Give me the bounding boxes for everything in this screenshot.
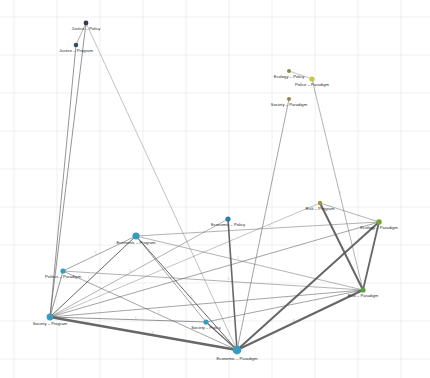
- graph-node-risk-program[interactable]: [318, 201, 322, 205]
- graph-node-label-society-program: Society – Program: [33, 321, 68, 326]
- graph-node-ecology-paradigm[interactable]: [376, 219, 382, 225]
- graph-node-justice-program[interactable]: [74, 43, 79, 48]
- graph-node-ecology-policy[interactable]: [287, 69, 291, 73]
- graph-node-label-justice-policy: Justice – Policy: [72, 26, 102, 31]
- graph-node-society-program[interactable]: [47, 314, 54, 321]
- graph-node-economic-policy[interactable]: [225, 216, 230, 221]
- graph-node-economic-paradigm[interactable]: [233, 346, 242, 355]
- graph-node-label-economic-paradigm: Economic – Paradigm: [217, 356, 258, 361]
- graph-node-society-paradigm[interactable]: [287, 97, 291, 101]
- network-graph-svg: 111122231121111111131111 Justice – Polic…: [0, 0, 430, 378]
- graph-node-label-economic-policy: Economic – Policy: [211, 222, 246, 227]
- graph-node-society-policy[interactable]: [203, 319, 208, 324]
- graph-node-label-ecology-policy: Ecology – Policy: [274, 74, 306, 79]
- graph-node-label-justice-program: Justice – Program: [59, 48, 93, 53]
- graph-node-label-ecology-paradigm: Ecology – Paradigm: [360, 225, 398, 230]
- graph-node-label-society-paradigm: Society – Paradigm: [271, 102, 308, 107]
- graph-node-police-paradigm[interactable]: [309, 76, 314, 81]
- graph-node-risk-paradigm[interactable]: [360, 287, 365, 292]
- graph-node-justice-policy[interactable]: [84, 21, 89, 26]
- network-graph-canvas: 111122231121111111131111 Justice – Polic…: [0, 0, 430, 378]
- graph-node-label-economic-program: Economic – Program: [116, 240, 156, 245]
- graph-node-label-society-policy: Society – Policy: [191, 325, 221, 330]
- graph-node-label-politics-paradigm: Politics – Paradigm: [45, 274, 81, 279]
- graph-node-label-risk-program: Risk – Program: [306, 206, 335, 211]
- graph-node-politics-paradigm[interactable]: [60, 268, 65, 273]
- graph-node-label-risk-paradigm: Risk – Paradigm: [348, 293, 379, 298]
- graph-node-label-police-paradigm: Police – Paradigm: [295, 82, 329, 87]
- graph-node-economic-program[interactable]: [132, 232, 139, 239]
